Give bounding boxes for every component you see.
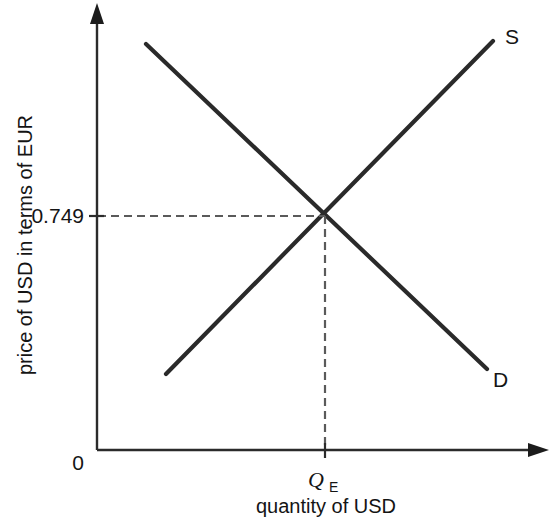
y-axis-arrowhead [90, 3, 104, 24]
demand-curve-label: D [493, 368, 508, 391]
demand-curve [146, 44, 487, 369]
supply-curve-label: S [505, 25, 519, 48]
supply-curve [166, 41, 493, 374]
equilibrium-quantity-symbol: Q [308, 467, 324, 492]
equilibrium-quantity-label: Q E [308, 467, 338, 495]
origin-label: 0 [72, 451, 84, 474]
x-axis-arrowhead [528, 443, 549, 457]
price-tick-label: 0.749 [31, 204, 84, 227]
equilibrium-quantity-subscript: E [329, 479, 338, 495]
x-axis-title: quantity of USD [256, 495, 396, 517]
chart-canvas: 0.749 0 S D Q E quantity of USD price of… [0, 0, 556, 520]
supply-demand-chart: 0.749 0 S D Q E quantity of USD price of… [0, 0, 556, 520]
y-axis-title: price of USD in terms of EUR [14, 115, 36, 375]
